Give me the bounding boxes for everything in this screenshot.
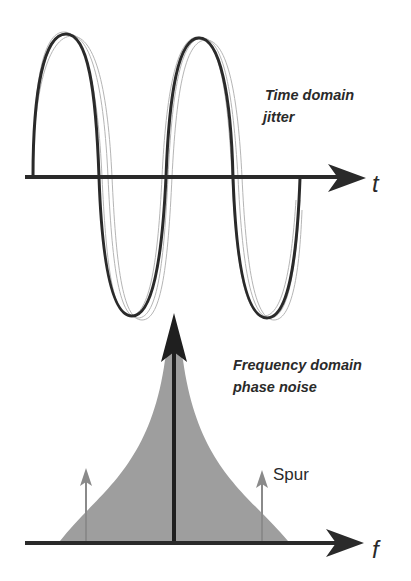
time-axis	[25, 164, 366, 192]
frequency-domain-title-line2: phase noise	[232, 379, 317, 395]
frequency-domain-plot: Spur f Frequency domain phase noise	[25, 313, 381, 563]
frequency-axis-label: f	[372, 536, 381, 563]
time-domain-title-line2: jitter	[261, 109, 296, 125]
time-axis-label: t	[372, 170, 380, 197]
spur-label: Spur	[273, 465, 309, 484]
time-domain-title-line1: Time domain	[265, 87, 354, 103]
frequency-domain-title-line1: Frequency domain	[233, 357, 362, 373]
phase-noise-diagram: t Time domain jitter Spur f Frequency do…	[0, 0, 411, 581]
time-domain-plot: t Time domain jitter	[25, 32, 380, 320]
